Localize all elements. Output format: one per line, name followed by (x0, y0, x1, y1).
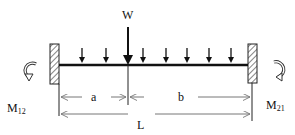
distributed-load-arrows (79, 48, 234, 63)
dimension-a-label: a (91, 90, 97, 104)
dimension-L-label: L (137, 118, 144, 132)
beam-diagram: W M12 M21 a (0, 0, 295, 135)
point-load-label: W (122, 8, 134, 22)
udl-arrow-icon (184, 48, 190, 63)
left-moment-label: M12 (7, 101, 26, 116)
point-load-arrow (123, 27, 133, 65)
udl-arrow-icon (163, 48, 169, 63)
udl-arrow-icon (140, 48, 146, 63)
udl-arrow-icon (228, 48, 234, 63)
udl-arrow-icon (79, 48, 85, 63)
left-fixed-support (50, 44, 59, 84)
udl-arrow-icon (103, 48, 109, 63)
dimension-b-label: b (178, 90, 184, 104)
right-fixed-support (248, 44, 257, 83)
right-moment-label: M21 (266, 98, 285, 113)
udl-arrow-icon (206, 48, 212, 63)
right-moment-icon (274, 62, 284, 81)
dimension-extension-lines (59, 65, 252, 121)
left-moment-icon (25, 63, 36, 81)
